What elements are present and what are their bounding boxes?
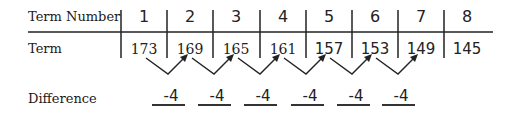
difference-value: -4 [290, 87, 330, 105]
difference-underline [244, 104, 277, 106]
row-label-term: Term [28, 41, 62, 56]
term-number-cell: 2 [167, 7, 213, 26]
term-number-cell: 1 [121, 7, 167, 26]
term-cell: 161 [260, 41, 306, 57]
term-cell: 157 [306, 40, 352, 58]
term-number-cell: 4 [260, 7, 306, 26]
difference-value: -4 [151, 87, 191, 105]
difference-value: -4 [243, 87, 283, 105]
difference-underline [337, 104, 370, 106]
term-cell: 169 [167, 41, 213, 57]
term-number-cell: 3 [213, 7, 259, 26]
term-cell: 145 [444, 40, 490, 58]
term-cell: 165 [213, 41, 259, 57]
term-number-cell: 7 [398, 7, 444, 26]
difference-value: -4 [381, 87, 421, 105]
difference-arrows [146, 58, 414, 74]
row-label-term-number: Term Number [28, 9, 120, 24]
term-cell: 153 [352, 40, 398, 58]
difference-value: -4 [197, 87, 237, 105]
difference-underline [382, 104, 415, 106]
term-number-cell: 6 [352, 7, 398, 26]
difference-underline [152, 104, 185, 106]
term-cell: 149 [398, 40, 444, 58]
row-label-difference: Difference [28, 91, 97, 106]
difference-underline [198, 104, 231, 106]
difference-value: -4 [336, 87, 376, 105]
difference-underline [291, 104, 324, 106]
term-cell: 173 [121, 41, 167, 57]
term-number-cell: 8 [444, 7, 490, 26]
term-number-cell: 5 [306, 7, 352, 26]
